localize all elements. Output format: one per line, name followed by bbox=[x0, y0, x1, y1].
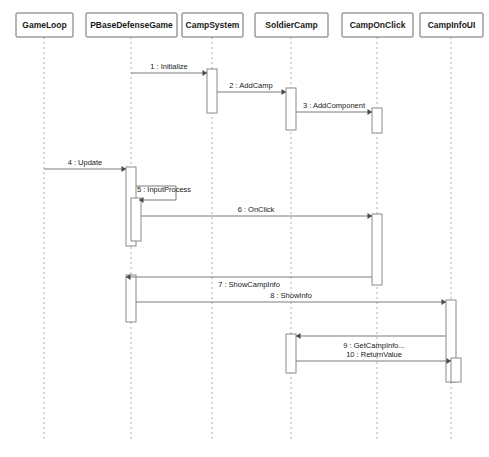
message-label: 10 : ReturnValue bbox=[346, 350, 402, 359]
activation-bar-pbase bbox=[126, 275, 136, 322]
lifeline-header-soldier[interactable]: SoldierCamp bbox=[255, 13, 328, 37]
lifeline-header-label: CampSystem bbox=[186, 20, 240, 30]
lifeline-header-label: CampOnClick bbox=[350, 20, 406, 30]
message-10[interactable]: 10 : ReturnValue bbox=[296, 350, 451, 364]
activation-bar-camponclick bbox=[372, 214, 382, 285]
lifeline-header-label: CampInfoUI bbox=[428, 20, 476, 30]
lifeline-header-campsystem[interactable]: CampSystem bbox=[182, 13, 243, 37]
lifeline-header-label: GameLoop bbox=[22, 20, 66, 30]
sequence-diagram-svg: GameLoopPBaseDefenseGameCampSystemSoldie… bbox=[0, 0, 489, 457]
lifeline-header-campinfoui[interactable]: CampInfoUI bbox=[420, 13, 483, 37]
sequence-diagram-canvas: GameLoopPBaseDefenseGameCampSystemSoldie… bbox=[0, 0, 489, 457]
message-arrowhead bbox=[368, 109, 373, 115]
lifeline-header-label: PBaseDefenseGame bbox=[90, 20, 173, 30]
message-label: 3 : AddComponent bbox=[303, 101, 366, 110]
message-arrowhead bbox=[296, 333, 301, 339]
lifeline-header-label: SoldierCamp bbox=[265, 20, 317, 30]
message-1[interactable]: 1 : Initialize bbox=[131, 62, 207, 76]
message-arrowhead bbox=[203, 70, 208, 76]
message-label: 1 : Initialize bbox=[150, 62, 188, 71]
message-label: 4 : Update bbox=[68, 158, 103, 167]
message-group: 1 : Initialize2 : AddCamp3 : AddComponen… bbox=[44, 62, 451, 364]
activation-bar-group bbox=[126, 69, 461, 382]
message-3[interactable]: 3 : AddComponent bbox=[296, 101, 372, 115]
message-label: 7 : ShowCampInfo bbox=[218, 280, 280, 289]
message-label: 2 : AddCamp bbox=[229, 81, 272, 90]
message-2[interactable]: 2 : AddCamp bbox=[217, 81, 286, 95]
message-7[interactable]: 7 : ShowCampInfo bbox=[126, 274, 372, 289]
message-arrowhead bbox=[122, 166, 127, 172]
message-9[interactable]: 9 : GetCampInfo... bbox=[296, 333, 446, 350]
message-arrowhead bbox=[282, 89, 287, 95]
activation-bar-campsystem bbox=[207, 69, 217, 113]
lifeline-header-pbase[interactable]: PBaseDefenseGame bbox=[86, 13, 177, 37]
message-arrowhead bbox=[442, 299, 447, 305]
message-arrowhead bbox=[368, 213, 373, 219]
activation-bar-camponclick bbox=[372, 108, 382, 133]
activation-bar-soldier bbox=[286, 88, 296, 130]
message-label: 9 : GetCampInfo... bbox=[343, 341, 404, 350]
message-label: 8 : ShowInfo bbox=[270, 291, 312, 300]
lifeline-header-camponclick[interactable]: CampOnClick bbox=[342, 13, 413, 37]
message-5[interactable]: 5 : InputProcess bbox=[136, 185, 191, 203]
lifeline-dash-group bbox=[44, 37, 451, 440]
activation-bar-pbase bbox=[131, 198, 141, 241]
lifeline-header-gameloop[interactable]: GameLoop bbox=[16, 13, 73, 37]
activation-bar-campinfoui bbox=[451, 358, 461, 382]
message-label: 6 : OnClick bbox=[238, 205, 275, 214]
activation-bar-soldier bbox=[286, 334, 296, 373]
message-6[interactable]: 6 : OnClick bbox=[141, 205, 372, 219]
message-4[interactable]: 4 : Update bbox=[44, 158, 126, 172]
lifeline-box-group: GameLoopPBaseDefenseGameCampSystemSoldie… bbox=[16, 13, 483, 37]
message-label: 5 : InputProcess bbox=[137, 185, 191, 194]
